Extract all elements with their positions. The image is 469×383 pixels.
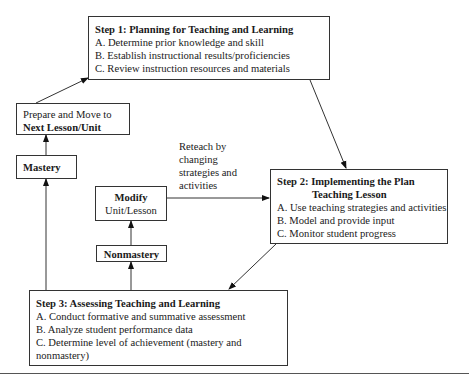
step2-item-c: C. Monitor student progress [277,227,447,240]
step3-box: Step 3: Assessing Teaching and Learning … [29,290,288,366]
prepare-next-box: Prepare and Move to Next Lesson/Unit [16,103,130,135]
reteach-line4: activities [179,179,237,192]
step2-title-line2: Teaching Lesson [277,188,447,201]
prepare-line1: Prepare and Move to [23,108,129,121]
arrow-step2-to-step3 [229,244,276,289]
bottom-divider [0,373,469,374]
prepare-line2: Next Lesson/Unit [23,121,129,134]
step2-box: Step 2: Implementing the Plan Teaching L… [270,169,448,244]
mastery-label: Mastery [23,161,76,174]
mastery-box: Mastery [16,155,77,179]
reteach-line1: Reteach by [179,140,237,153]
step1-item-a: A. Determine prior knowledge and skill [95,36,329,49]
step1-title: Step 1: Planning for Teaching and Learni… [95,23,329,36]
modify-line1: Modify [96,191,166,204]
step3-item-b: B. Analyze student performance data [36,323,287,336]
step3-item-c-cont: nonmastery) [36,349,287,362]
step1-item-c: C. Review instruction resources and mate… [95,62,329,75]
step2-item-b: B. Model and provide input [277,214,447,227]
step3-item-c: C. Determine level of achievement (maste… [36,336,287,349]
nonmastery-label: Nonmastery [97,248,166,261]
step2-title-line1: Step 2: Implementing the Plan [277,175,447,188]
nonmastery-box: Nonmastery [96,245,167,262]
arrow-prepare-to-step1 [36,78,88,103]
modify-box: Modify Unit/Lesson [95,186,167,221]
step1-box: Step 1: Planning for Teaching and Learni… [88,16,330,80]
step3-item-a: A. Conduct formative and summative asses… [36,310,287,323]
reteach-line3: strategies and [179,166,237,179]
step2-item-a: A. Use teaching strategies and activitie… [277,201,447,214]
modify-line2: Unit/Lesson [96,204,166,217]
arrow-step1-to-step2 [310,80,346,168]
step1-item-b: B. Establish instructional results/profi… [95,49,329,62]
reteach-line2: changing [179,153,237,166]
step3-title: Step 3: Assessing Teaching and Learning [36,297,287,310]
reteach-label: Reteach by changing strategies and activ… [179,140,237,192]
